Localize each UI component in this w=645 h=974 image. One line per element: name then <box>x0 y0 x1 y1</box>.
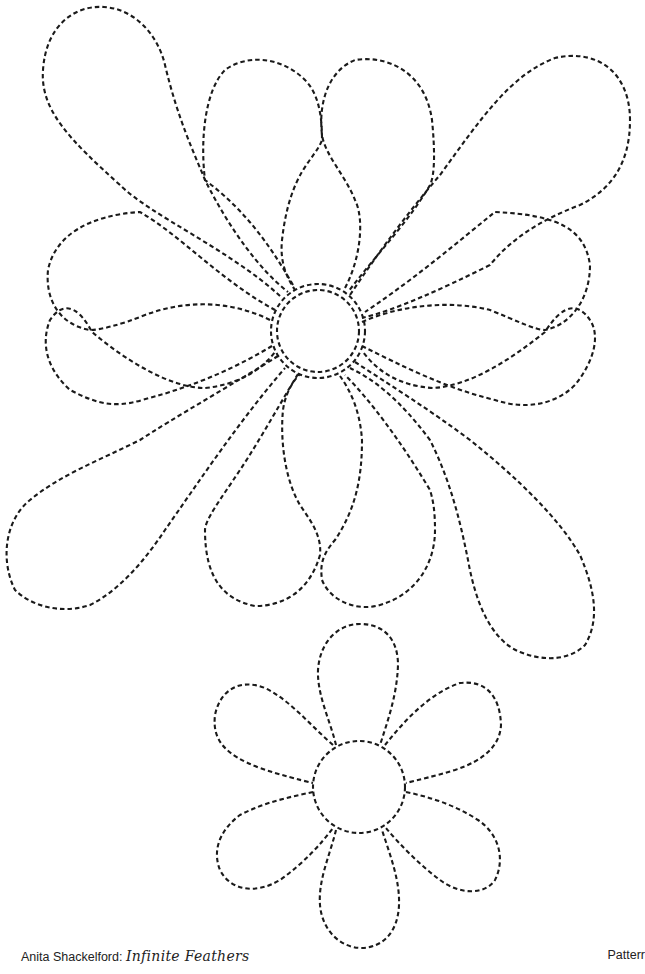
small-petal-top-right <box>385 683 501 783</box>
petal-bottom-right-large <box>350 362 594 658</box>
petal-bottom-center-right <box>321 375 435 607</box>
small-petal-bottom-right <box>386 792 500 891</box>
large-flower-center-inner-ring <box>277 290 359 372</box>
small-petal-bottom <box>320 830 399 948</box>
footer-pattern-label: Patterr <box>607 948 645 962</box>
petal-bottom-left-large <box>7 356 285 609</box>
petal-bottom-center-left <box>205 374 320 606</box>
petal-top-right-large <box>350 56 630 318</box>
footer-author: Anita Shackelford: <box>21 950 126 964</box>
petal-top-left-large <box>43 7 288 296</box>
petal-top-center-right <box>321 59 434 292</box>
petal-left-lower-mid <box>46 308 275 404</box>
footer-credit: Anita Shackelford: Infinite Feathers <box>21 948 249 964</box>
petal-upper-left-mid <box>48 212 275 330</box>
quilting-pattern <box>0 0 645 974</box>
large-flower <box>7 7 630 658</box>
petal-right-lower-mid <box>362 308 595 405</box>
small-petal-bottom-left <box>217 792 333 889</box>
small-petal-top-left <box>215 684 333 783</box>
petal-top-center-left <box>203 60 322 290</box>
large-flower-center-outer-ring <box>271 284 365 378</box>
small-flower-center <box>313 741 405 833</box>
small-petal-top <box>318 624 398 745</box>
small-flower <box>215 624 501 948</box>
footer-book-title: Infinite Feathers <box>126 948 250 964</box>
